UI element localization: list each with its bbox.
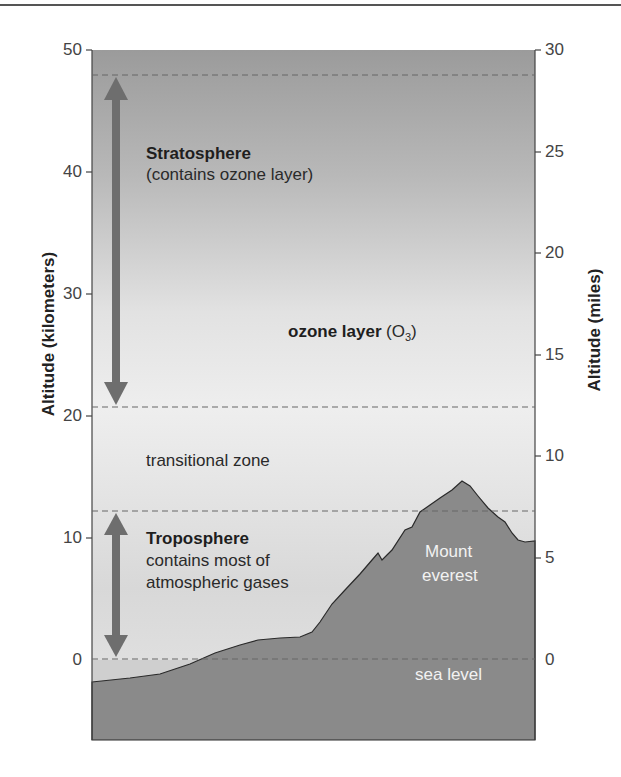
mount-everest-label-line1: Mount	[425, 542, 472, 562]
ozone-layer-label: ozone layer (O3)	[288, 322, 417, 343]
left-tick-40: 40	[42, 162, 82, 182]
right-tick-30: 30	[545, 40, 564, 60]
right-tick-25: 25	[545, 142, 564, 162]
left-tick-10: 10	[42, 528, 82, 548]
atmosphere-diagram	[0, 0, 621, 777]
stratosphere-description: (contains ozone layer)	[146, 165, 313, 185]
left-ticks	[86, 50, 92, 538]
ozone-formula: (O3)	[386, 322, 417, 341]
sea-level-label: sea level	[415, 665, 482, 685]
right-tick-10: 10	[545, 446, 564, 466]
ozone-layer-title: ozone layer	[288, 322, 382, 341]
troposphere-description-line1: contains most of	[146, 551, 270, 571]
troposphere-description-line2: atmospheric gases	[146, 573, 289, 593]
right-tick-5: 5	[545, 548, 554, 568]
right-tick-15: 15	[545, 345, 564, 365]
left-tick-0: 0	[42, 650, 82, 670]
troposphere-label: Troposphere	[146, 529, 249, 549]
left-tick-50: 50	[42, 40, 82, 60]
transitional-zone-label: transitional zone	[146, 451, 270, 471]
left-axis-title: Altitude (kilometers)	[39, 239, 59, 429]
mount-everest-label-line2: everest	[422, 566, 478, 586]
right-axis-title: Altitude (miles)	[585, 255, 605, 405]
right-tick-20: 20	[545, 243, 564, 263]
stratosphere-label: Stratosphere	[146, 144, 251, 164]
right-ticks	[535, 50, 541, 558]
right-tick-0: 0	[545, 650, 554, 670]
